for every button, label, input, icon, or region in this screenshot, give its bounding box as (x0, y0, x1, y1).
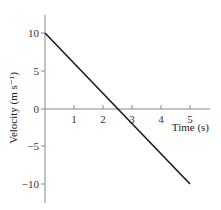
y-ticks: 10 5 0 −5 −10 (22, 27, 45, 190)
velocity-time-chart: 10 5 0 −5 −10 1 2 3 4 5 Time (s) Velocit… (0, 0, 221, 210)
y-tick-label: −10 (22, 178, 40, 190)
y-tick-label: 10 (28, 27, 40, 39)
x-tick-label: 1 (71, 113, 77, 125)
x-axis-label: Time (s) (172, 121, 210, 134)
x-tick-label: 2 (100, 113, 106, 125)
y-tick-label: 0 (34, 103, 40, 115)
y-axis-label: Velocity (m s⁻¹) (7, 72, 20, 144)
y-tick-label: 5 (34, 65, 40, 77)
y-tick-label: −5 (27, 140, 39, 152)
x-tick-label: 4 (158, 113, 164, 125)
